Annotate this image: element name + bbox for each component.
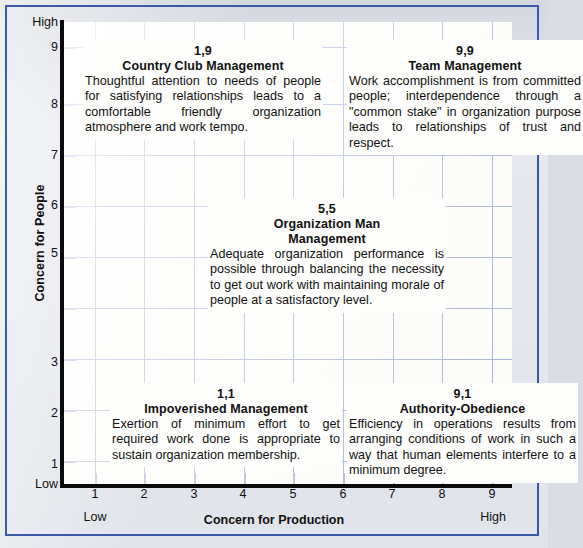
y-tickmark-8 [64, 104, 76, 106]
y-tickmark-4 [64, 308, 76, 310]
x-tick-label-7: 7 [377, 487, 407, 501]
y-tickmark-9 [64, 47, 76, 49]
cell-1-1-code: 1,1 [112, 387, 340, 402]
cell-9-9: 9,9 Team Management Work accomplishment … [347, 40, 583, 155]
x-tickmark-3 [194, 473, 196, 484]
y-tick-label-6: 6 [12, 198, 58, 212]
y-tick-label-1: 1 [12, 457, 58, 471]
x-tickmark-2 [144, 473, 146, 484]
y-tickmark-3 [64, 359, 76, 361]
x-tick-label-8: 8 [427, 487, 457, 501]
y-tick-label-9: 9 [12, 40, 58, 54]
x-tickmark-4 [244, 473, 246, 484]
cell-9-9-code: 9,9 [349, 44, 581, 59]
cell-9-1-body: Efficiency in operations results from ar… [349, 417, 576, 479]
cell-1-1: 1,1 Impoverished Management Exertion of … [110, 383, 342, 467]
cell-9-1: 9,1 Authority-Obedience Efficiency in op… [347, 383, 578, 483]
cell-9-9-body: Work accomplishment is from committed pe… [349, 74, 581, 151]
x-tick-label-1: 1 [80, 487, 110, 501]
x-tick-label-6: 6 [328, 487, 358, 501]
cell-5-5: 5,5 Organization Man Management Adequate… [208, 198, 446, 313]
cell-5-5-code: 5,5 [210, 202, 444, 217]
x-tick-label-2: 2 [129, 487, 159, 501]
x-tickmark-5 [293, 473, 295, 484]
x-tick-label-9: 9 [477, 487, 507, 501]
cell-1-1-name: Impoverished Management [112, 402, 340, 417]
y-axis-low-label: Low [12, 477, 58, 491]
y-tick-label-5: 5 [12, 246, 58, 260]
y-tick-label-3: 3 [12, 355, 58, 369]
x-tick-label-5: 5 [278, 487, 308, 501]
x-axis-title: Concern for Production [0, 513, 548, 527]
cell-1-9-name: Country Club Management [85, 59, 321, 74]
cell-1-1-body: Exertion of minimum effort to get requir… [112, 417, 340, 463]
y-tickmark-7 [64, 155, 76, 157]
y-tickmark-6 [64, 206, 76, 208]
y-axis-high-label: High [12, 15, 58, 29]
x-tickmark-1 [95, 473, 97, 484]
x-tickmark-6 [343, 473, 345, 484]
y-tickmark-2 [64, 410, 76, 412]
y-axis-title: Concern for People [33, 163, 47, 323]
x-axis-spine [60, 484, 512, 488]
y-tickmark-5 [64, 257, 76, 259]
y-tick-label-8: 8 [12, 97, 58, 111]
cell-9-1-name: Authority-Obedience [349, 402, 576, 417]
gridline-h-3 [64, 359, 512, 360]
cell-5-5-body: Adequate organization performance is pos… [210, 247, 444, 309]
y-tick-label-2: 2 [12, 406, 58, 420]
cell-9-1-code: 9,1 [349, 387, 576, 402]
y-tickmark-1 [64, 461, 76, 463]
x-tick-label-3: 3 [179, 487, 209, 501]
cell-5-5-name-line1: Organization Man [210, 217, 444, 232]
y-axis-spine [60, 20, 64, 488]
cell-9-9-name: Team Management [349, 59, 581, 74]
cell-1-9-body: Thoughtful attention to needs of people … [85, 74, 321, 136]
cell-5-5-name-line2: Management [210, 232, 444, 247]
y-tick-label-7: 7 [12, 148, 58, 162]
cell-1-9-code: 1,9 [85, 44, 321, 59]
x-tick-label-4: 4 [228, 487, 258, 501]
gridline-h-7 [64, 155, 512, 156]
grid-plot-area: 1,9 Country Club Management Thoughtful a… [64, 22, 512, 484]
cell-1-9: 1,9 Country Club Management Thoughtful a… [83, 40, 323, 140]
